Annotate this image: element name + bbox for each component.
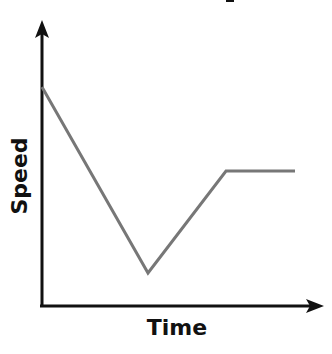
speed-line bbox=[42, 87, 295, 273]
y-axis-label: Speed bbox=[7, 137, 32, 214]
speed-time-chart bbox=[0, 0, 332, 354]
x-axis-label: Time bbox=[0, 315, 332, 340]
